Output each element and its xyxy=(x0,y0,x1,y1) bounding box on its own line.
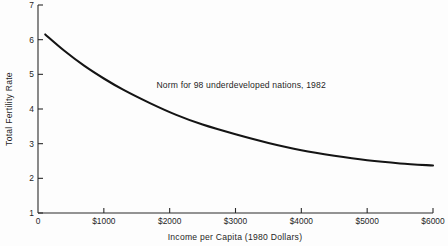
x-tick-label: $3000 xyxy=(224,216,248,226)
y-tick-label-group: 1234567 xyxy=(29,0,34,218)
x-tick-group xyxy=(104,208,433,213)
y-tick-label: 7 xyxy=(29,0,34,10)
y-axis-group: 1234567 xyxy=(29,0,43,218)
curve-annotation-label: Norm for 98 underdeveloped nations, 1982 xyxy=(157,80,326,90)
origin-tick-label: 0 xyxy=(36,216,41,226)
y-tick-label: 1 xyxy=(29,208,34,218)
fertility-income-chart: 1234567 $1000$2000$3000$4000$5000$6000 N… xyxy=(0,0,448,246)
x-tick-label: $4000 xyxy=(290,216,314,226)
chart-plot-area: 1234567 $1000$2000$3000$4000$5000$6000 N… xyxy=(0,0,448,246)
x-tick-label: $6000 xyxy=(421,216,445,226)
x-axis-group: $1000$2000$3000$4000$5000$6000 xyxy=(38,208,445,226)
fertility-curve xyxy=(45,34,433,165)
y-tick-label: 2 xyxy=(29,173,34,183)
x-tick-label: $5000 xyxy=(356,216,380,226)
x-tick-label-group: $1000$2000$3000$4000$5000$6000 xyxy=(92,216,445,226)
y-tick-group xyxy=(38,5,43,213)
y-tick-label: 3 xyxy=(29,139,34,149)
x-axis-title: Income per Capita (1980 Dollars) xyxy=(168,232,303,242)
y-tick-label: 5 xyxy=(29,69,34,79)
y-tick-label: 6 xyxy=(29,35,34,45)
y-tick-label: 4 xyxy=(29,104,34,114)
x-tick-label: $2000 xyxy=(158,216,182,226)
x-tick-label: $1000 xyxy=(92,216,116,226)
y-axis-title: Total Fertility Rate xyxy=(4,72,14,146)
